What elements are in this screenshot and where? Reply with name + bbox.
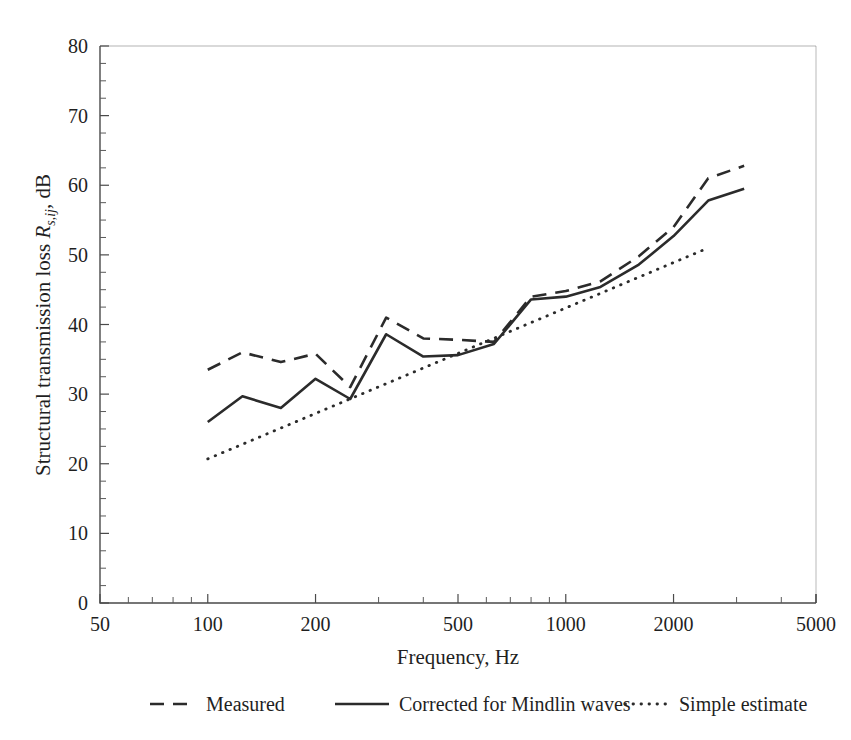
legend-label-2: Simple estimate (679, 693, 807, 716)
y-tick-label: 80 (68, 35, 88, 57)
y-axis-title: Structural transmission loss Rs,ij, dB (31, 174, 58, 476)
chart-canvas: 01020304050607080 5010020050010002000500… (0, 0, 851, 740)
legend-label-1: Corrected for Mindlin waves (399, 693, 631, 715)
series-path-1 (208, 189, 744, 422)
chart-legend: MeasuredCorrected for Mindlin wavesSimpl… (150, 693, 807, 716)
legend-label-0: Measured (206, 693, 285, 715)
y-axis-title-symbol: R (31, 226, 55, 240)
x-tick-label: 5000 (796, 613, 836, 635)
y-axis-title-subscript: s,ij (43, 209, 58, 226)
series-path-0 (208, 166, 744, 387)
y-tick-label: 10 (68, 522, 88, 544)
y-axis-title-tail: , dB (31, 174, 55, 209)
y-tick-label: 50 (68, 244, 88, 266)
axis-lines (100, 46, 816, 603)
x-tick-label: 1000 (546, 613, 586, 635)
y-tick-label: 0 (78, 592, 88, 614)
y-tick-label: 60 (68, 174, 88, 196)
data-series-group (208, 166, 744, 459)
y-axis-title-main: Structural transmission loss (31, 239, 55, 476)
y-tick-label: 70 (68, 105, 88, 127)
y-tick-label: 40 (68, 314, 88, 336)
x-tick-label: 200 (301, 613, 331, 635)
y-tick-label: 20 (68, 453, 88, 475)
x-axis-ticks: 50100200500100020005000 (90, 594, 836, 635)
axes-frame (100, 46, 816, 603)
x-tick-label: 50 (90, 613, 110, 635)
y-axis-ticks: 01020304050607080 (68, 35, 109, 614)
y-tick-label: 30 (68, 383, 88, 405)
y-axis-title-text: Structural transmission loss Rs,ij, dB (31, 174, 58, 476)
x-tick-label: 2000 (654, 613, 694, 635)
x-tick-label: 100 (193, 613, 223, 635)
figure-container: 01020304050607080 5010020050010002000500… (0, 0, 851, 740)
x-axis-title: Frequency, Hz (397, 645, 519, 669)
series-path-2 (208, 248, 708, 459)
x-tick-label: 500 (443, 613, 473, 635)
